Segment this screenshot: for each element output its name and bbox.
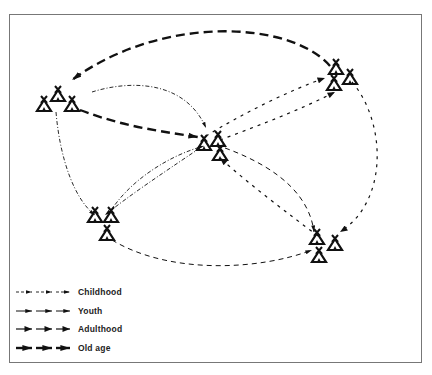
settlement-center [197,131,227,160]
tent-icon [51,86,65,101]
settlement-top-left [37,86,79,111]
edge-childhood-a-to-d [56,112,95,215]
tent-icon [100,225,114,240]
legend-item-old-age: Old age [14,339,122,358]
edge-childhood-c-to-d [105,148,200,215]
edge-childhood-a-to-c [92,85,206,128]
old-age-line-icon [14,344,72,352]
tent-icon [197,135,211,150]
tent-icon [310,229,324,244]
settlement-bottom-right [310,229,342,262]
edge-old-age-a-to-c [80,110,198,137]
legend-item-adulthood: Adulthood [14,320,122,339]
tent-icon [88,207,102,222]
adulthood-line-icon [14,325,72,333]
tent-icon [211,131,225,146]
legend-label: Childhood [78,287,122,297]
childhood-line-icon [14,288,72,296]
legend: Childhood Youth Adulthood Old age [14,283,122,357]
tent-icon [104,207,118,222]
settlement-bottom-left [88,207,118,240]
legend-label: Youth [78,306,102,316]
tent-icon [329,59,343,74]
tent-icon [65,96,79,111]
legend-label: Old age [78,343,111,353]
tent-icon [343,69,357,84]
legend-item-childhood: Childhood [14,283,122,302]
edge-youth-c-to-e [225,148,314,232]
tent-icon [312,247,326,262]
tent-icon [37,96,51,111]
edge-adulthood-c-to-b [206,78,325,136]
tent-icon [213,145,227,160]
legend-label: Adulthood [78,324,122,334]
tent-icon [328,235,342,250]
edge-adulthood-b-to-e [340,82,377,232]
youth-line-icon [14,307,72,315]
tent-icon [327,75,341,90]
edge-childhood-d-to-c [110,146,204,212]
legend-item-youth: Youth [14,302,122,321]
edge-old-age-b-to-a [72,31,330,80]
settlement-top-right [327,59,357,90]
edge-adulthood-c-to-b [220,92,335,140]
edge-youth-d-to-e [112,240,312,266]
